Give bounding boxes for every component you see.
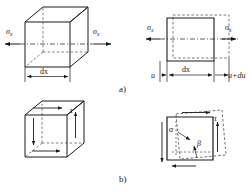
sigma-x-right-label: σx bbox=[93, 27, 100, 37]
figure-canvas: σx σx dx bbox=[0, 0, 252, 192]
caption-b: b) bbox=[119, 174, 127, 184]
square-a-u-plus-du-label: u+du bbox=[228, 71, 245, 80]
square-b-original-outline bbox=[167, 117, 213, 160]
beta-label: β bbox=[196, 139, 201, 148]
alpha-label: α bbox=[169, 125, 174, 134]
caption-a: a) bbox=[119, 84, 126, 94]
sigma-x-2d-right-label: σx bbox=[225, 23, 232, 33]
figure-root: σx σx dx bbox=[0, 0, 252, 192]
panel-b-cube-group: τ bbox=[25, 101, 84, 157]
square-a-witness-lines bbox=[160, 58, 229, 82]
square-a-u-label: u bbox=[151, 71, 155, 80]
square-a-displaced-outline bbox=[173, 15, 229, 58]
panel-a-cube-group: σx σx dx bbox=[5, 7, 111, 82]
sigma-x-2d-left-label: σx bbox=[147, 23, 154, 33]
panel-b-square-group: τ α β bbox=[162, 110, 226, 166]
sigma-x-left-label: σx bbox=[6, 27, 13, 37]
square-b-tau-label: τ bbox=[214, 114, 218, 123]
square-a-original-outline bbox=[167, 18, 214, 61]
cube-a-dx-label: dx bbox=[40, 67, 48, 76]
square-a-dx-label: dx bbox=[182, 65, 190, 74]
cube-b-tau-label: τ bbox=[70, 106, 74, 115]
panel-a-square-group: σx σx dx u bbox=[146, 15, 245, 82]
cube-a-hidden-edges bbox=[25, 7, 88, 67]
alpha-leader-line bbox=[178, 132, 190, 140]
cube-a-visible-edges bbox=[25, 7, 88, 67]
